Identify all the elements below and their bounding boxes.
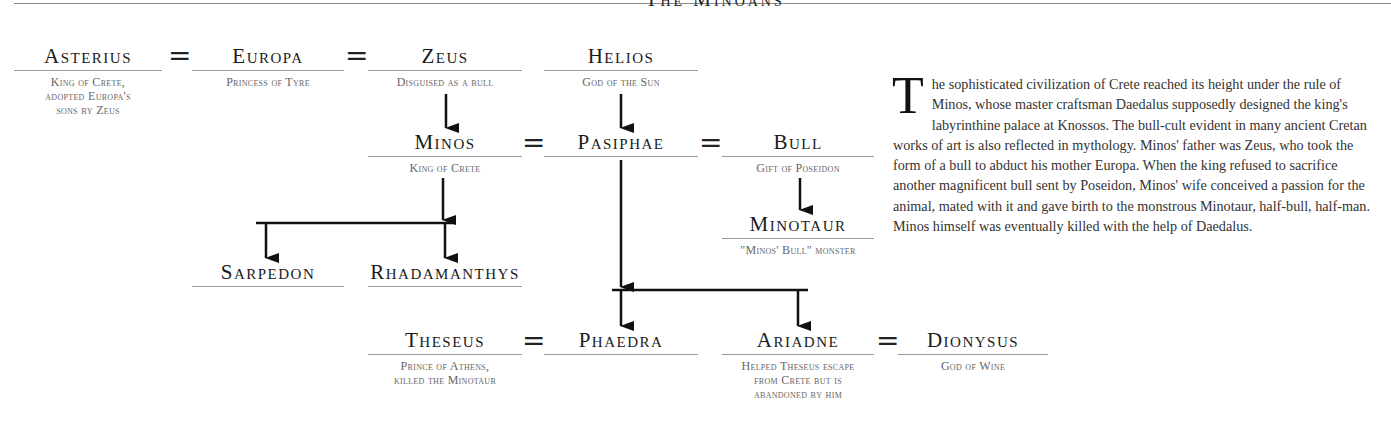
person-phaedra: Phaedra <box>544 328 698 355</box>
person-name: Pasiphae <box>544 130 698 154</box>
person-name: Theseus <box>368 328 522 352</box>
name-rule <box>368 70 522 71</box>
marriage-symbol: = <box>522 131 545 155</box>
name-rule <box>368 286 522 287</box>
person-desc: God of Wine <box>898 359 1048 373</box>
person-name: Helios <box>544 44 698 68</box>
person-name: Asterius <box>14 44 162 68</box>
marriage-symbol: = <box>876 329 899 353</box>
name-rule <box>544 70 698 71</box>
person-name: Minotaur <box>722 212 874 236</box>
name-rule <box>192 70 344 71</box>
person-name: Europa <box>192 44 344 68</box>
marriage-symbol: = <box>168 44 191 68</box>
person-desc: Gift of Poseidon <box>722 161 874 175</box>
person-zeus: Zeus Disguised as a bull <box>368 44 522 89</box>
person-sarpedon: Sarpedon <box>192 260 344 287</box>
person-minos: Minos King of Crete <box>368 130 522 175</box>
person-dionysus: Dionysus God of Wine <box>898 328 1048 373</box>
name-rule <box>544 354 698 355</box>
person-desc: King of Crete <box>368 161 522 175</box>
person-pasiphae: Pasiphae <box>544 130 698 157</box>
name-rule <box>722 156 874 157</box>
name-rule <box>544 156 698 157</box>
name-rule <box>14 70 162 71</box>
person-minotaur: Minotaur "Minos' Bull" monster <box>722 212 874 257</box>
name-rule <box>722 354 874 355</box>
marriage-symbol: = <box>699 131 722 155</box>
name-rule <box>192 286 344 287</box>
person-desc: Prince of Athens,killed the Minotaur <box>368 359 522 387</box>
name-rule <box>368 354 522 355</box>
person-bull: Bull Gift of Poseidon <box>722 130 874 175</box>
person-name: Zeus <box>368 44 522 68</box>
marriage-symbol: = <box>345 44 368 68</box>
person-ariadne: Ariadne Helped Theseus escapefrom Crete … <box>722 328 874 401</box>
person-name: Dionysus <box>898 328 1048 352</box>
person-name: Bull <box>722 130 874 154</box>
drop-cap: T <box>892 76 924 116</box>
person-desc: Disguised as a bull <box>368 75 522 89</box>
person-name: Rhadamanthys <box>368 260 522 284</box>
person-name: Ariadne <box>722 328 874 352</box>
marriage-symbol: = <box>522 329 545 353</box>
name-rule <box>722 238 874 239</box>
person-desc: God of the Sun <box>544 75 698 89</box>
name-rule <box>898 354 1048 355</box>
intro-paragraph: The sophisticated civilization of Crete … <box>893 74 1383 236</box>
person-desc: King of Crete,adopted Europa'ssons by Ze… <box>14 75 162 117</box>
person-name: Phaedra <box>544 328 698 352</box>
person-name: Sarpedon <box>192 260 344 284</box>
person-name: Minos <box>368 130 522 154</box>
person-desc: Princess of Tyre <box>192 75 344 89</box>
person-europa: Europa Princess of Tyre <box>192 44 344 89</box>
person-asterius: Asterius King of Crete,adopted Europa'ss… <box>14 44 162 117</box>
person-theseus: Theseus Prince of Athens,killed the Mino… <box>368 328 522 387</box>
person-desc: Helped Theseus escapefrom Crete but isab… <box>722 359 874 401</box>
person-rhadamanthys: Rhadamanthys <box>368 260 522 287</box>
paragraph-text: he sophisticated civilization of Crete r… <box>893 76 1370 234</box>
person-desc: "Minos' Bull" monster <box>722 243 874 257</box>
name-rule <box>368 156 522 157</box>
person-helios: Helios God of the Sun <box>544 44 698 89</box>
